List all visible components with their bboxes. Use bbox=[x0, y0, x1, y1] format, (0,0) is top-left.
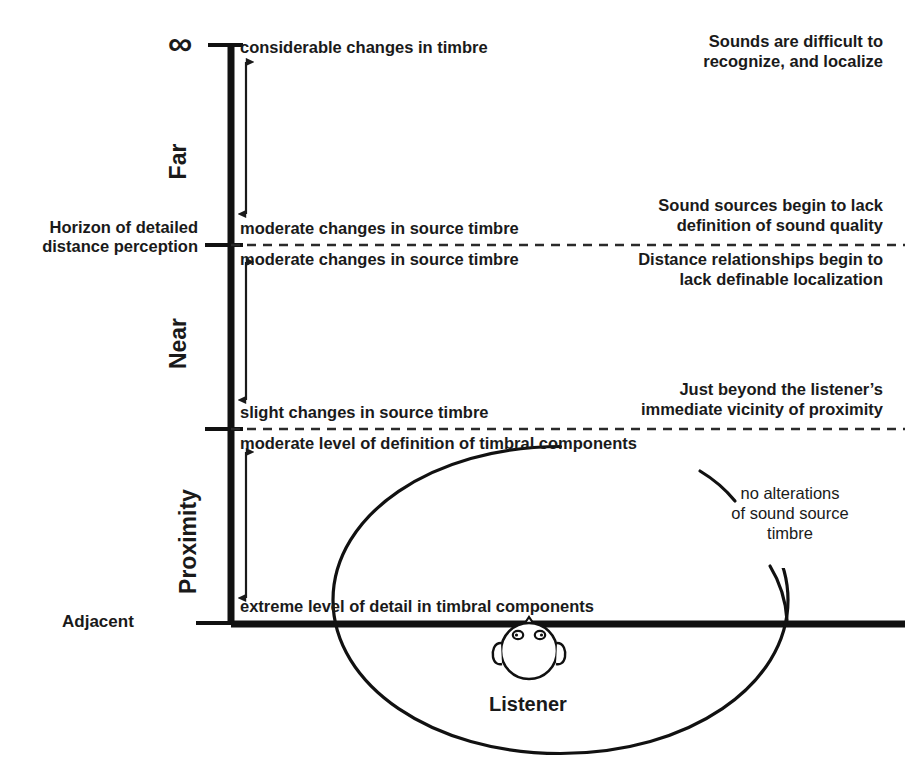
zone-text-far-upper: considerable changes in timbre bbox=[240, 38, 488, 57]
zone-text-proximity-upper: moderate level of definition of timbral … bbox=[240, 434, 637, 453]
zone-text-far-lower: moderate changes in source timbre bbox=[240, 219, 519, 238]
horizon-note-label: Horizon of detailed distance perception bbox=[0, 218, 198, 257]
zone-right-text-far-lower: Sound sources begin to lack definition o… bbox=[523, 196, 883, 236]
axis-ticks bbox=[196, 45, 243, 623]
axis-category-proximity: Proximity bbox=[175, 462, 202, 622]
axis-category-far: Far bbox=[165, 102, 192, 222]
listener-label: Listener bbox=[489, 693, 567, 716]
zone-right-text-near-lower: Just beyond the listener’s immediate vic… bbox=[503, 380, 883, 420]
zone-right-text-far-upper: Sounds are difficult to recognize, and l… bbox=[553, 32, 883, 72]
proximity-callout-label: no alterations of sound source timbre bbox=[692, 483, 888, 543]
axis-top-label: ∞ bbox=[168, 26, 192, 60]
axis-bottom-label: Adjacent bbox=[62, 612, 134, 632]
zone-text-near-upper: moderate changes in source timbre bbox=[240, 250, 519, 269]
zone-text-proximity-lower: extreme level of detail in timbral compo… bbox=[240, 597, 594, 616]
zone-right-text-near-upper: Distance relationships begin to lack def… bbox=[503, 250, 883, 290]
axis-category-near: Near bbox=[165, 284, 192, 404]
distance-perception-diagram: ∞ Far Near Proximity Horizon of detailed… bbox=[0, 0, 913, 776]
zone-text-near-lower: slight changes in source timbre bbox=[240, 403, 488, 422]
